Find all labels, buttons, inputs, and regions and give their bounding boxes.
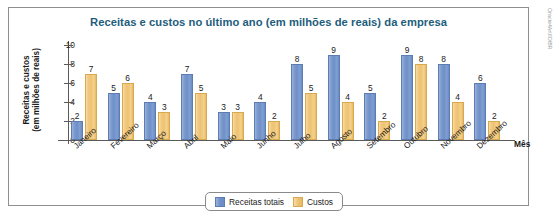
bar-value-label: 9 — [331, 46, 336, 55]
bar-value-label: 3 — [235, 103, 240, 112]
bar-receitas[interactable]: 6 — [474, 83, 486, 140]
chart-figure: Receitas e custos no último ano (em milh… — [8, 7, 529, 206]
bar-value-label: 3 — [221, 103, 226, 112]
bar-value-label: 9 — [405, 46, 410, 55]
bar-value-label: 8 — [441, 55, 446, 64]
bar-value-label: 2 — [492, 112, 497, 121]
chart-title: Receitas e custos no último ano (em milh… — [9, 16, 528, 28]
legend-item[interactable]: Receitas totais — [215, 197, 284, 207]
bar-value-label: 3 — [162, 103, 167, 112]
bar-value-label: 4 — [455, 93, 460, 102]
bar-group: 27 — [69, 45, 106, 140]
bar-value-label: 6 — [125, 74, 130, 83]
chart-legend: Receitas totaisCustos — [205, 192, 343, 211]
bar-group: 75 — [179, 45, 216, 140]
bar-group: 85 — [289, 45, 326, 140]
bar-value-label: 4 — [345, 93, 350, 102]
bar-receitas[interactable]: 7 — [181, 74, 193, 141]
bar-group: 43 — [142, 45, 179, 140]
bar-value-label: 2 — [272, 112, 277, 121]
x-axis-title: Mês — [514, 139, 530, 149]
bar-value-label: 8 — [419, 55, 424, 64]
bar-value-label: 6 — [478, 74, 483, 83]
y-axis-title: Receitas e custos (em milhões de reais) — [15, 34, 49, 146]
bar-receitas[interactable]: 5 — [108, 93, 120, 141]
legend-swatch-icon — [293, 197, 303, 207]
y-axis-title-line1: Receitas e custos — [22, 55, 31, 124]
bar-group: 42 — [252, 45, 289, 140]
bar-value-label: 5 — [309, 84, 314, 93]
legend-item[interactable]: Custos — [293, 197, 333, 207]
bar-group: 33 — [216, 45, 253, 140]
bar-value-label: 5 — [368, 84, 373, 93]
bar-receitas[interactable]: 5 — [364, 93, 376, 141]
bar-value-label: 7 — [185, 65, 190, 74]
bar-receitas[interactable]: 8 — [438, 64, 450, 140]
bar-group: 94 — [326, 45, 363, 140]
bar-value-label: 2 — [382, 112, 387, 121]
bar-receitas[interactable]: 8 — [291, 64, 303, 140]
bar-custos[interactable]: 5 — [195, 93, 207, 141]
bar-value-label: 2 — [75, 112, 80, 121]
bar-group: 98 — [399, 45, 436, 140]
credit-line: Oracle4Art/ID/BR — [544, 8, 556, 98]
y-axis-tick-mark — [64, 140, 73, 141]
legend-swatch-icon — [215, 197, 225, 207]
bar-value-label: 8 — [295, 55, 300, 64]
bar-value-label: 7 — [89, 65, 94, 74]
y-axis-title-line2: (em milhões de reais) — [32, 48, 41, 132]
legend-label: Receitas totais — [229, 197, 284, 207]
bar-value-label: 4 — [258, 93, 263, 102]
bar-receitas[interactable]: 9 — [328, 55, 340, 141]
bar-value-label: 4 — [148, 93, 153, 102]
bar-value-label: 5 — [111, 84, 116, 93]
bar-value-label: 5 — [199, 84, 204, 93]
legend-label: Custos — [307, 197, 333, 207]
bar-receitas[interactable]: 9 — [401, 55, 413, 141]
